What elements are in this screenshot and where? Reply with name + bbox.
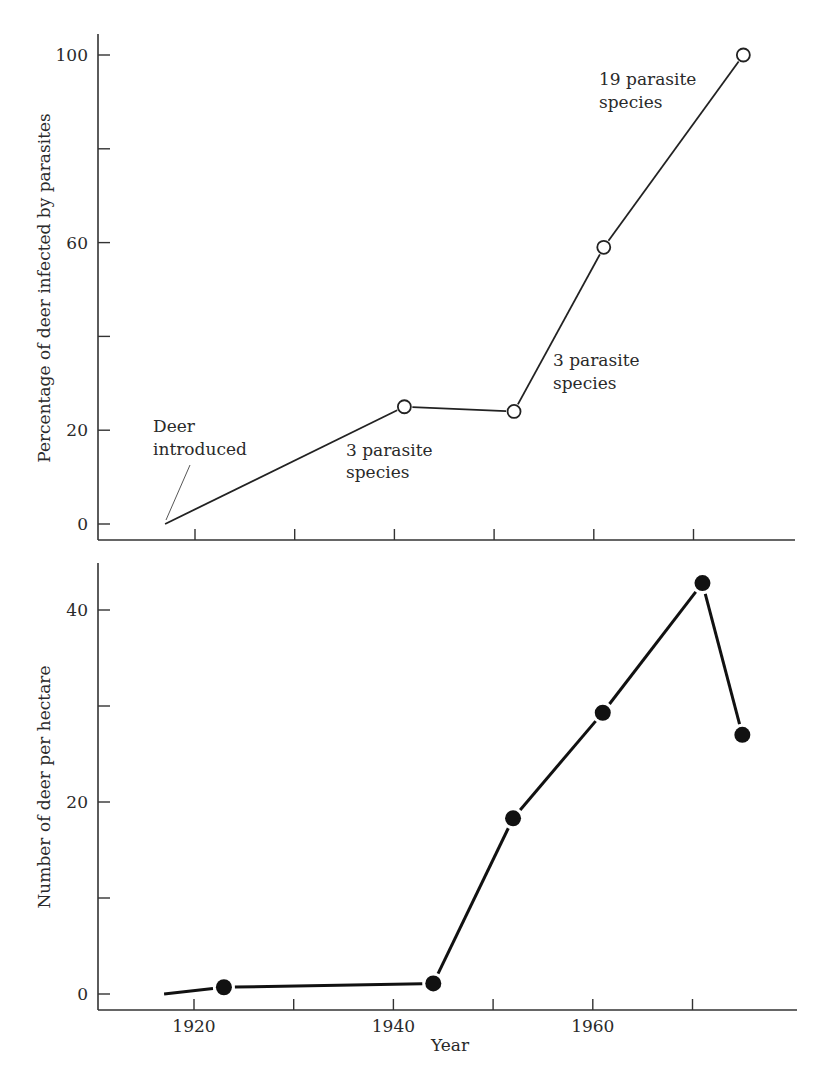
open-circle-marker: [508, 405, 521, 418]
y-tick-label: 0: [77, 514, 88, 534]
top-y-axis-title: Percentage of deer infected by parasites: [34, 113, 54, 463]
y-tick-label: 20: [66, 792, 88, 812]
top-panel-infection-chart: 02060100 Deerintroduced3 parasitespecies…: [34, 34, 795, 540]
filled-circle-marker: [425, 975, 441, 991]
x-tick-label: 1960: [571, 1016, 614, 1036]
annotation-line-1: 3 parasite: [346, 440, 433, 460]
bottom-series-line: [164, 575, 750, 995]
annotation-line-2: species: [553, 373, 616, 393]
x-tick-label: 1920: [172, 1016, 215, 1036]
open-circle-marker: [398, 400, 411, 413]
series-segment: [164, 989, 213, 994]
bottom-axes: 02040192019401960: [66, 563, 797, 1036]
filled-circle-marker: [595, 705, 611, 721]
top-annotations: Deerintroduced3 parasitespecies3 parasit…: [153, 69, 696, 520]
series-segment: [438, 828, 508, 973]
filled-circle-marker: [216, 979, 232, 995]
bottom-y-axis-title: Number of deer per hectare: [34, 665, 54, 908]
series-segment: [412, 407, 506, 411]
top-series-line: [165, 49, 750, 525]
series-segment: [705, 594, 739, 724]
series-segment: [235, 984, 422, 987]
y-tick-label: 20: [66, 420, 88, 440]
annotation-line-1: 19 parasite: [599, 69, 696, 89]
annotation-line-2: species: [599, 92, 662, 112]
filled-circle-marker: [505, 810, 521, 826]
filled-circle-marker: [734, 727, 750, 743]
figure: 02060100 Deerintroduced3 parasitespecies…: [0, 0, 821, 1073]
bottom-x-axis-title: Year: [430, 1035, 470, 1055]
x-tick-label: 1940: [372, 1016, 415, 1036]
series-segment: [520, 721, 595, 810]
open-circle-marker: [737, 49, 750, 62]
annotation-pointer-line: [166, 465, 190, 520]
open-circle-marker: [597, 241, 610, 254]
y-tick-label: 0: [77, 984, 88, 1004]
y-tick-label: 60: [66, 233, 88, 253]
y-tick-label: 40: [66, 600, 88, 620]
series-segment: [609, 592, 695, 704]
annotation-line-1: Deer: [153, 416, 196, 436]
annotation-line-2: introduced: [153, 439, 247, 459]
top-axes: 02060100: [56, 34, 795, 540]
bottom-panel-density-chart: 02040192019401960 Number of deer per hec…: [34, 563, 797, 1055]
annotation-line-2: species: [346, 462, 409, 482]
y-tick-label: 100: [56, 45, 88, 65]
filled-circle-marker: [694, 575, 710, 591]
annotation-line-1: 3 parasite: [553, 350, 640, 370]
